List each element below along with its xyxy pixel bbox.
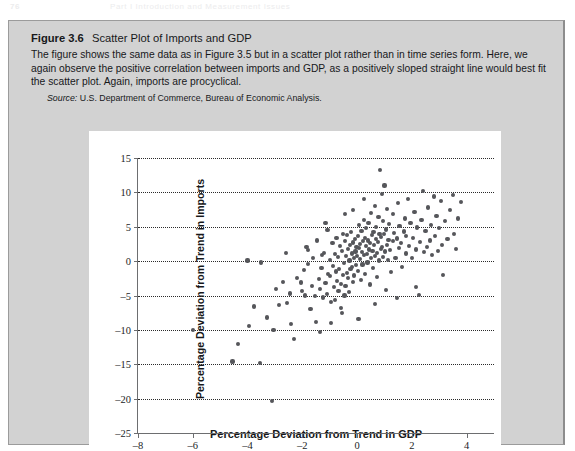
x-tick-mark (467, 433, 468, 438)
scatter-point (388, 248, 392, 252)
x-tick-label: 0 (354, 440, 359, 451)
scatter-point (412, 210, 416, 214)
y-tick-label: –5 (121, 290, 132, 301)
scatter-point (230, 359, 234, 363)
scatter-point (376, 215, 380, 219)
x-tick-label: 2 (409, 440, 414, 451)
scatter-point (378, 168, 382, 172)
scatter-point (321, 295, 325, 299)
figure-title: Scatter Plot of Imports and GDP (87, 32, 252, 44)
scatter-point (347, 258, 351, 262)
scatter-point (432, 194, 436, 198)
y-tick-mark (134, 330, 138, 331)
scatter-point (292, 337, 296, 341)
scatter-point (270, 399, 274, 403)
scatter-point (454, 247, 458, 251)
scatter-point (418, 240, 422, 244)
scatter-point (417, 293, 421, 297)
scatter-point (385, 207, 389, 211)
scatter-point (384, 288, 388, 292)
scatter-point (340, 311, 344, 315)
scatter-point (350, 265, 354, 269)
gridline-y (138, 364, 494, 365)
scatter-point (349, 230, 353, 234)
x-tick-mark (412, 433, 413, 438)
scatter-point (407, 244, 411, 248)
scatter-point (330, 241, 334, 245)
scatter-point (382, 183, 386, 187)
x-tick-mark (248, 433, 249, 438)
scatter-point (317, 277, 321, 281)
y-tick-mark (134, 227, 138, 228)
scatter-point (329, 321, 333, 325)
scatter-point (331, 264, 335, 268)
scatter-point (434, 214, 438, 218)
scatter-point (415, 225, 419, 229)
figure-source-text: U.S. Department of Commerce, Bureau of E… (80, 93, 322, 103)
scatter-point (365, 260, 369, 264)
scatter-point (385, 243, 389, 247)
x-axis-line (137, 433, 494, 434)
x-tick-mark (357, 433, 358, 438)
y-tick-label: –25 (115, 428, 131, 439)
scatter-point (392, 231, 396, 235)
scatter-point (306, 262, 310, 266)
scatter-point (342, 261, 346, 265)
scatter-point (245, 258, 249, 262)
scatter-point (322, 251, 326, 255)
scatter-point (284, 251, 288, 255)
scatter-point (426, 205, 430, 209)
scatter-point (381, 219, 385, 223)
scatter-point (315, 238, 319, 242)
x-tick-mark (302, 433, 303, 438)
scatter-point (440, 243, 444, 247)
scatter-point (437, 226, 441, 230)
scatter-point (360, 262, 364, 266)
gridline-y (138, 192, 494, 193)
scatter-point (456, 216, 460, 220)
scatter-point (395, 296, 399, 300)
scatter-point (370, 249, 374, 253)
scatter-point (391, 239, 395, 243)
scatter-point (452, 232, 456, 236)
scatter-point (404, 251, 408, 255)
scatter-point (345, 271, 349, 275)
scatter-point (311, 256, 315, 260)
scatter-point (399, 241, 403, 245)
scatter-point (318, 287, 322, 291)
scatter-point (351, 240, 355, 244)
gridline-y (138, 261, 494, 262)
scatter-point (281, 280, 285, 284)
y-tick-mark (134, 364, 138, 365)
y-tick-label: 15 (121, 153, 132, 164)
scatter-point (347, 290, 351, 294)
scatter-point (373, 302, 377, 306)
scatter-point (371, 230, 375, 234)
scatter-point (310, 284, 314, 288)
x-tick-label: –4 (242, 440, 253, 451)
scatter-point (236, 342, 240, 346)
scatter-point (303, 293, 307, 297)
scatter-point (285, 301, 289, 305)
y-tick-label: –20 (115, 393, 131, 404)
scatter-point (306, 248, 310, 252)
scatter-point (382, 232, 386, 236)
scatter-point (346, 276, 350, 280)
scatter-point (323, 281, 327, 285)
scatter-point (352, 273, 356, 277)
y-tick-label: –15 (115, 359, 131, 370)
y-tick-label: –10 (115, 324, 131, 335)
scatter-point (295, 276, 299, 280)
running-head-text: Part I Introduction and Measurement Issu… (110, 2, 290, 11)
scatter-point (340, 249, 344, 253)
scatter-point (339, 282, 343, 286)
scatter-point (381, 255, 385, 259)
gridline-y (138, 158, 494, 159)
scatter-point (289, 322, 293, 326)
y-tick-mark (134, 399, 138, 400)
scatter-point (459, 200, 463, 204)
scatter-point (375, 251, 379, 255)
scatter-point (374, 225, 378, 229)
scatter-point (328, 258, 332, 262)
scatter-point (451, 193, 455, 197)
